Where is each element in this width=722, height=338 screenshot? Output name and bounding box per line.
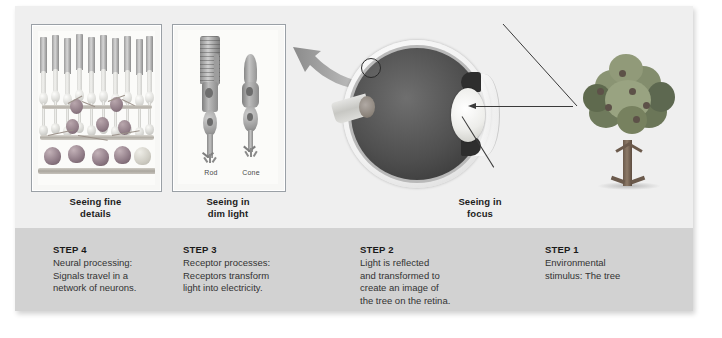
- arrow-left-icon: [468, 103, 476, 109]
- step-line: light into electricity.: [183, 282, 263, 293]
- step-line: and transformed to: [360, 270, 440, 281]
- ganglion-cell: [92, 148, 109, 166]
- step-2: STEP 2 Light is reflected and transforme…: [360, 244, 520, 307]
- rod-cell: [200, 36, 222, 168]
- step-line: create an image of: [360, 282, 439, 293]
- step-line: Environmental: [545, 257, 606, 268]
- step-title: STEP 3: [183, 244, 328, 255]
- step-1: STEP 1 Environmental stimulus: The tree: [545, 244, 685, 282]
- ganglion-cell: [114, 146, 131, 164]
- ganglion-cell: [68, 145, 85, 163]
- step-line: network of neurons.: [53, 282, 136, 293]
- caption-line: dim light: [172, 208, 284, 220]
- rod-cone-illustration: Rod Cone: [178, 30, 278, 184]
- retina-callout-circle: [361, 58, 381, 78]
- step-line: Receptor processes:: [183, 257, 270, 268]
- step-body: Receptor processes: Receptors transform …: [183, 257, 328, 295]
- retinal-neurons-illustration: [38, 31, 155, 185]
- bipolar-cell: [96, 117, 109, 132]
- illustration-area: Seeing fine details: [15, 6, 693, 228]
- optic-disc: [359, 96, 375, 118]
- step-line: Neural processing:: [53, 257, 132, 268]
- step-body: Environmental stimulus: The tree: [545, 257, 685, 282]
- foliage-blob: [617, 106, 647, 134]
- step-line: the tree on the retina.: [360, 295, 450, 306]
- step-line: Receptors transform: [183, 270, 269, 281]
- step-body: Neural processing: Signals travel in a n…: [53, 257, 193, 295]
- step-line: Light is reflected: [360, 257, 429, 268]
- vision-process-figure: Seeing fine details: [15, 6, 693, 311]
- horizontal-cell-layer: [42, 105, 152, 109]
- cone-cell: [240, 54, 264, 168]
- label-cone: Cone: [231, 169, 271, 176]
- caption-line: details: [31, 208, 160, 220]
- step-line: stimulus: The tree: [545, 270, 620, 281]
- tree-diagonal-leader-line: [495, 16, 585, 111]
- label-rod: Rod: [191, 169, 231, 176]
- foliage-blob: [647, 82, 675, 112]
- lens: [451, 88, 485, 142]
- caption-seeing-in-dim-light: Seeing in dim light: [172, 196, 284, 220]
- step-title: STEP 1: [545, 244, 685, 255]
- step-3: STEP 3 Receptor processes: Receptors tra…: [183, 244, 328, 295]
- caption-line: Seeing in: [415, 196, 545, 208]
- nerve-fiber-layer: [38, 168, 155, 174]
- caption-seeing-in-focus: Seeing in focus: [415, 196, 545, 220]
- caption-line: Seeing in: [172, 196, 284, 208]
- step-body: Light is reflected and transformed to cr…: [360, 257, 520, 307]
- panel-seeing-fine-details: [31, 24, 162, 192]
- ganglion-cell: [134, 147, 151, 165]
- eye-cross-section-illustration: [333, 36, 498, 191]
- caption-line: Seeing fine: [31, 196, 160, 208]
- ganglion-cell: [44, 147, 61, 165]
- step-title: STEP 4: [53, 244, 193, 255]
- step-line: Signals travel in a: [53, 270, 128, 281]
- panel-seeing-in-dim-light: Rod Cone: [172, 24, 286, 192]
- steps-band: STEP 4 Neural processing: Signals travel…: [15, 228, 693, 311]
- caption-seeing-fine-details: Seeing fine details: [31, 196, 160, 220]
- caption-line: focus: [415, 208, 545, 220]
- step-4: STEP 4 Neural processing: Signals travel…: [53, 244, 193, 295]
- tree-illustration: [575, 54, 685, 194]
- step-title: STEP 2: [360, 244, 520, 255]
